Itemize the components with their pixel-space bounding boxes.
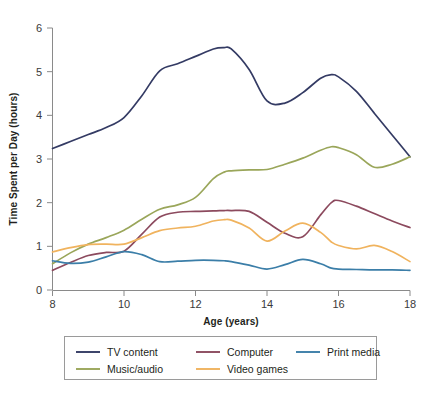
- x-tick-label: 14: [261, 298, 273, 310]
- x-tick-label: 12: [189, 298, 201, 310]
- x-tick-label: 10: [118, 298, 130, 310]
- legend-label-computer: Computer: [227, 346, 274, 358]
- legend-label-print-media: Print media: [327, 346, 380, 358]
- x-axis-title: Age (years): [203, 316, 259, 327]
- legend-label-video-games: Video games: [227, 363, 288, 375]
- y-tick-label: 2: [36, 197, 42, 209]
- legend-label-music-audio: Music/audio: [107, 363, 163, 375]
- x-tick-label: 8: [49, 298, 55, 310]
- x-tick-label: 18: [404, 298, 416, 310]
- y-axis-title: Time Spent per Day (hours): [8, 93, 19, 226]
- line-chart-figure: 0123456 81012141618 Time Spent per Day (…: [0, 0, 431, 396]
- y-tick-label: 6: [36, 22, 42, 34]
- y-tick-label: 5: [36, 66, 42, 78]
- x-tick-label: 16: [332, 298, 344, 310]
- legend-label-tv-content: TV content: [107, 346, 158, 358]
- y-tick-label: 0: [36, 284, 42, 296]
- y-tick-label: 3: [36, 153, 42, 165]
- y-tick-label: 4: [36, 109, 42, 121]
- y-tick-label: 1: [36, 240, 42, 252]
